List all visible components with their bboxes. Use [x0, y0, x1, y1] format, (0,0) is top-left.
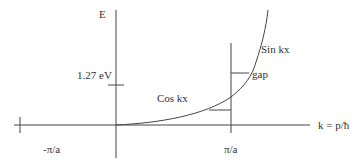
energy-tick-label: 1.27 eV	[77, 69, 112, 81]
band-structure-diagram: E 1.27 eV Sin kx gap Cos kx -π/a π/a k =…	[0, 0, 362, 166]
e-axis-label: E	[99, 8, 106, 20]
k-axis-label: k = p/ħ	[318, 119, 349, 131]
dispersion-curve	[116, 10, 268, 125]
pos-pi-label: π/a	[224, 143, 238, 155]
neg-pi-label: -π/a	[43, 143, 60, 155]
gap-label: gap	[252, 68, 268, 80]
sin-kx-label: Sin kx	[261, 43, 289, 55]
diagram-canvas	[0, 0, 362, 166]
cos-kx-label: Cos kx	[157, 92, 188, 104]
